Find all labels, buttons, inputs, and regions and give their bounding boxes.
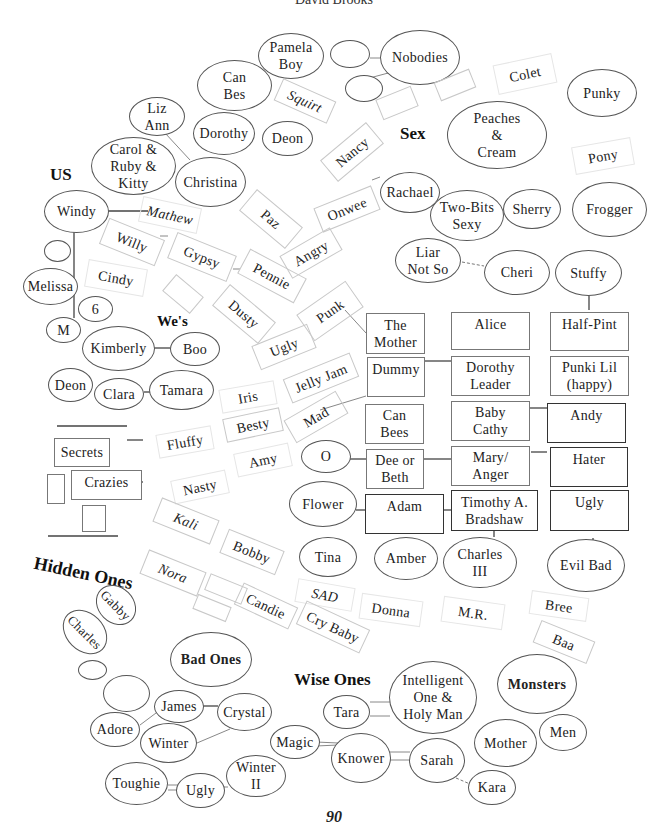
group-heading-sex: Sex bbox=[400, 124, 426, 144]
node-magic[interactable]: Magic bbox=[270, 725, 320, 759]
box-half-pint[interactable]: Half-Pint bbox=[550, 312, 629, 351]
node-tina[interactable]: Tina bbox=[299, 537, 357, 577]
node-bad-ones[interactable]: Bad Ones bbox=[170, 632, 252, 687]
node-cheri[interactable]: Cheri bbox=[484, 250, 550, 295]
box-crazies[interactable]: Crazies bbox=[71, 470, 142, 500]
node-kara[interactable]: Kara bbox=[468, 770, 516, 805]
node-charles-iii[interactable]: Charles III bbox=[443, 537, 517, 588]
node-james[interactable]: James bbox=[154, 690, 204, 723]
box-can-bees[interactable]: Can Bees bbox=[365, 404, 424, 444]
box-empty-2[interactable] bbox=[82, 505, 106, 532]
node-m[interactable]: M bbox=[46, 317, 81, 343]
node-tamara[interactable]: Tamara bbox=[149, 370, 214, 410]
node-carol-ruby-kitty[interactable]: Carol & Ruby & Kitty bbox=[91, 137, 176, 195]
node-deon-top[interactable]: Deon bbox=[262, 121, 313, 156]
node-monsters[interactable]: Monsters bbox=[497, 654, 577, 714]
group-heading-wise-ones: Wise Ones bbox=[294, 670, 371, 690]
node-men[interactable]: Men bbox=[539, 714, 587, 751]
group-heading-wes: We's bbox=[157, 313, 188, 330]
box-andy[interactable]: Andy bbox=[547, 403, 626, 443]
node-sherry[interactable]: Sherry bbox=[503, 189, 561, 229]
box-baby-cathy[interactable]: Baby Cathy bbox=[451, 401, 530, 441]
node-empty-3[interactable] bbox=[44, 240, 71, 262]
node-adore[interactable]: Adore bbox=[90, 712, 140, 747]
node-christina[interactable]: Christina bbox=[175, 157, 246, 207]
node-flower[interactable]: Flower bbox=[289, 481, 357, 527]
box-dummy[interactable]: Dummy bbox=[367, 357, 425, 397]
box-dorothy-leader[interactable]: Dorothy Leader bbox=[451, 356, 530, 396]
node-tara[interactable]: Tara bbox=[323, 695, 370, 729]
node-frogger[interactable]: Frogger bbox=[572, 182, 647, 237]
node-boo[interactable]: Boo bbox=[170, 332, 220, 366]
node-six[interactable]: 6 bbox=[78, 296, 113, 322]
page-number: 90 bbox=[0, 808, 668, 826]
box-punki-lil[interactable]: Punki Lil (happy) bbox=[550, 356, 629, 396]
node-windy[interactable]: Windy bbox=[44, 190, 109, 233]
node-winter-ii[interactable]: Winter II bbox=[226, 755, 286, 797]
gabby-label: Gabby bbox=[97, 586, 135, 624]
node-intelligent-one-holy-man[interactable]: Intelligent One & Holy Man bbox=[389, 661, 477, 734]
node-two-bits-sexy[interactable]: Two-Bits Sexy bbox=[430, 190, 504, 241]
group-heading-us: US bbox=[50, 165, 72, 185]
box-mary-anger[interactable]: Mary/ Anger bbox=[451, 446, 530, 486]
node-punky[interactable]: Punky bbox=[567, 69, 637, 117]
box-adam[interactable]: Adam bbox=[365, 494, 444, 534]
node-knower[interactable]: Knower bbox=[331, 733, 391, 783]
node-amber[interactable]: Amber bbox=[374, 537, 438, 580]
node-peaches-cream[interactable]: Peaches & Cream bbox=[447, 101, 547, 169]
node-liar-not-so[interactable]: Liar Not So bbox=[395, 238, 461, 283]
node-clara[interactable]: Clara bbox=[94, 378, 144, 410]
node-empty-1[interactable] bbox=[330, 40, 370, 68]
box-hater[interactable]: Hater bbox=[550, 447, 628, 487]
node-deon[interactable]: Deon bbox=[48, 368, 93, 402]
node-evil-bad[interactable]: Evil Bad bbox=[547, 539, 625, 592]
node-melissa[interactable]: Melissa bbox=[23, 268, 78, 305]
node-liz-ann[interactable]: Liz Ann bbox=[129, 97, 185, 136]
node-can-bes[interactable]: Can Bes bbox=[197, 60, 272, 111]
node-sarah[interactable]: Sarah bbox=[409, 738, 465, 783]
node-pamela-boy[interactable]: Pamela Boy bbox=[258, 33, 324, 79]
node-stuffy[interactable]: Stuffy bbox=[555, 250, 622, 296]
box-ugly[interactable]: Ugly bbox=[550, 490, 629, 531]
node-mother[interactable]: Mother bbox=[474, 719, 537, 767]
node-kimberly[interactable]: Kimberly bbox=[82, 326, 155, 371]
node-o[interactable]: O bbox=[301, 440, 351, 473]
node-empty-4[interactable] bbox=[78, 660, 107, 680]
node-ugly-bottom[interactable]: Ugly bbox=[176, 773, 225, 808]
box-dee-or-beth[interactable]: Dee or Beth bbox=[366, 449, 424, 489]
node-empty-5[interactable] bbox=[103, 675, 150, 712]
node-dorothy[interactable]: Dorothy bbox=[193, 112, 255, 155]
box-alice[interactable]: Alice bbox=[451, 312, 530, 350]
box-timothy-bradshaw[interactable]: Timothy A. Bradshaw bbox=[451, 490, 538, 531]
node-crystal[interactable]: Crystal bbox=[217, 693, 272, 731]
box-secrets[interactable]: Secrets bbox=[54, 438, 110, 467]
node-winter[interactable]: Winter bbox=[140, 723, 197, 763]
box-the-mother[interactable]: The Mother bbox=[366, 313, 425, 354]
node-toughie[interactable]: Toughie bbox=[105, 762, 168, 805]
box-empty-1[interactable] bbox=[47, 474, 65, 504]
